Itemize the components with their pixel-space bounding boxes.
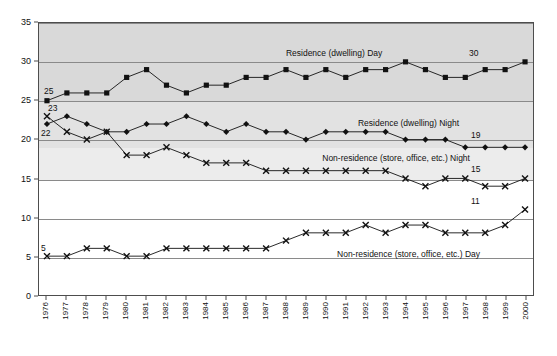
x-tick-label-1979: 1979 [102,302,110,320]
series-1-point-23 [502,144,508,150]
x-tick-label-1990: 1990 [322,302,330,320]
y-tick-label-30: 30 [21,57,31,66]
x-tick-mark-1978 [86,296,87,300]
series-0-point-10 [244,75,249,80]
x-tick-label-1994: 1994 [402,302,410,320]
x-tick-label-1978: 1978 [82,302,90,320]
x-tick-mark-1981 [146,296,147,300]
series-1-point-1 [64,113,70,119]
y-tick-label-35: 35 [21,18,31,27]
endpoint-label-30-1: 30 [469,48,478,57]
series-1-point-2 [84,121,90,127]
series-1-point-21 [462,144,468,150]
series-0-point-1 [64,90,69,95]
series-0-point-3 [104,90,109,95]
y-tick-label-0: 0 [26,292,31,301]
series-1-point-5 [143,121,149,127]
series-2-point-6 [163,144,169,150]
series-1-point-10 [243,121,249,127]
x-tick-label-1993: 1993 [382,302,390,320]
series-annotation-0: Residence (dwelling) Day [286,48,382,57]
series-0-point-17 [383,67,388,72]
series-1-point-9 [223,129,229,135]
series-1-point-7 [183,113,189,119]
chart-container: 05101520253035 Residence (dwelling) DayR… [0,0,557,356]
series-1-point-15 [343,129,349,135]
endpoint-label-11-6: 11 [471,197,480,206]
series-2-point-7 [183,152,189,158]
series-0 [44,59,527,103]
x-tick-label-1992: 1992 [362,302,370,320]
series-1-point-4 [124,129,130,135]
series-1-point-16 [363,129,369,135]
series-0-point-5 [144,67,149,72]
x-tick-label-1999: 1999 [502,302,510,320]
series-1-point-20 [442,136,448,142]
series-1-point-8 [203,121,209,127]
series-0-point-23 [503,67,508,72]
x-tick-label-1998: 1998 [482,302,490,320]
series-0-point-13 [303,75,308,80]
series-0-point-20 [443,75,448,80]
x-tick-mark-1999 [506,296,507,300]
series-3-point-23 [502,222,508,228]
series-2-point-18 [403,175,409,181]
x-tick-label-1977: 1977 [62,302,70,320]
x-tick-label-1995: 1995 [422,302,430,320]
x-tick-mark-1980 [126,296,127,300]
series-3-point-17 [383,230,389,236]
endpoint-label-19-4: 19 [471,131,480,140]
x-tick-label-1989: 1989 [302,302,310,320]
series-1-point-24 [522,144,528,150]
x-tick-mark-1990 [326,296,327,300]
x-tick-label-1996: 1996 [442,302,450,320]
series-1-point-12 [283,129,289,135]
series-2-point-1 [64,129,70,135]
x-tick-label-1984: 1984 [202,302,210,320]
endpoint-label-5-7: 5 [41,243,46,252]
series-0-point-11 [263,75,268,80]
x-tick-mark-1994 [406,296,407,300]
series-0-point-4 [124,75,129,80]
x-tick-mark-1977 [66,296,67,300]
x-tick-mark-1988 [286,296,287,300]
series-2-point-2 [84,137,90,143]
x-tick-label-1991: 1991 [342,302,350,320]
x-tick-mark-1997 [466,296,467,300]
series-2-point-0 [44,113,50,119]
endpoint-label-15-5: 15 [471,165,480,174]
x-tick-mark-1996 [446,296,447,300]
series-2-point-24 [522,175,528,181]
series-0-point-12 [283,67,288,72]
series-1-point-0 [44,121,50,127]
endpoint-label-22-3: 22 [41,129,50,138]
x-tick-mark-1991 [346,296,347,300]
y-tick-label-20: 20 [21,135,31,144]
x-tick-label-1997: 1997 [462,302,470,320]
x-tick-mark-1985 [226,296,227,300]
x-tick-mark-1987 [266,296,267,300]
series-0-point-16 [363,67,368,72]
x-tick-mark-2000 [526,296,527,300]
series-0-point-19 [423,67,428,72]
series-annotation-2: Non-residence (store, office, etc.) Nigh… [322,154,470,163]
series-0-point-24 [522,59,527,64]
series-2-point-19 [422,183,428,189]
x-tick-mark-1993 [386,296,387,300]
x-tick-mark-1983 [186,296,187,300]
y-tick-label-15: 15 [21,174,31,183]
endpoint-label-23-2: 23 [48,104,57,113]
x-tick-label-1982: 1982 [162,302,170,320]
x-tick-label-1986: 1986 [242,302,250,320]
series-1-point-22 [482,144,488,150]
series-1-point-17 [383,129,389,135]
series-1-point-11 [263,129,269,135]
series-1-point-18 [402,136,408,142]
series-3-point-12 [283,238,289,244]
series-3-point-16 [363,222,369,228]
series-0-point-9 [224,83,229,88]
x-tick-mark-1986 [246,296,247,300]
x-tick-label-2000: 2000 [522,302,530,320]
series-0-point-22 [483,67,488,72]
x-tick-mark-1992 [366,296,367,300]
